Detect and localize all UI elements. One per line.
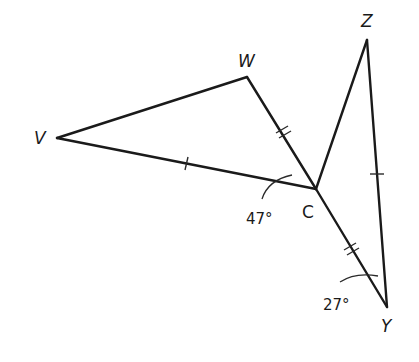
vertex-label-z: Z [360,11,373,31]
vertex-label-w: W [238,51,256,71]
vertex-label-v: V [34,128,47,148]
angle-label-c: 47° [246,210,273,228]
vertex-label-c: C [302,202,314,222]
segment-cz [316,40,367,189]
segment-cy [316,189,387,307]
vertex-label-y: Y [381,316,393,336]
geometry-diagram: V W Z C Y 47° 27° [0,0,419,362]
segment-wc [247,77,316,189]
segment-vw [57,77,247,138]
angle-label-y: 27° [323,296,350,314]
